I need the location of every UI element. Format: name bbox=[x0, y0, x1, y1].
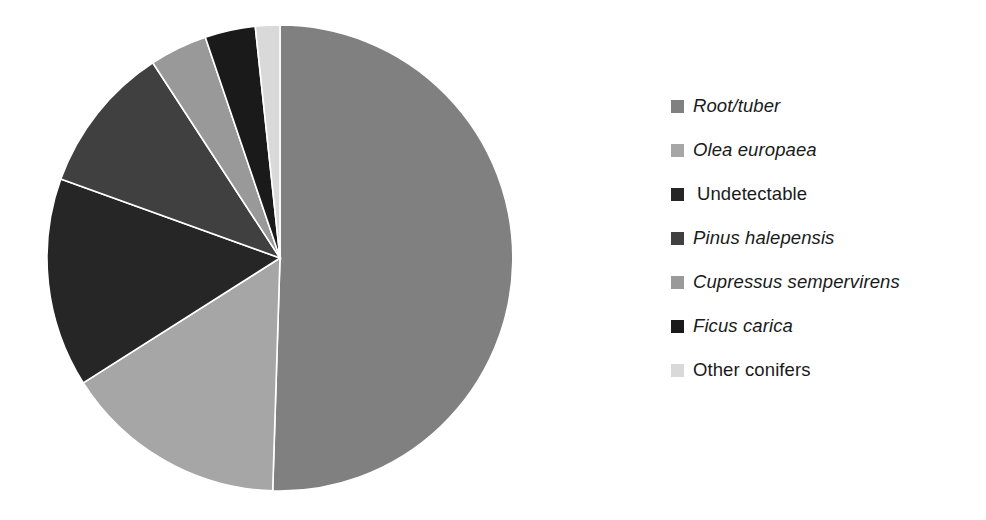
chart-legend: Root/tuber Olea europaea Undetectable Pi… bbox=[671, 84, 971, 392]
legend-swatch-icon-ficus-carica bbox=[671, 320, 684, 333]
legend-item-root-tuber[interactable]: Root/tuber bbox=[671, 84, 971, 128]
legend-item-olea-europaea[interactable]: Olea europaea bbox=[671, 128, 971, 172]
legend-swatch-icon-cupressus-sempervirens bbox=[671, 276, 684, 289]
legend-label-cupressus-sempervirens: Cupressus sempervirens bbox=[693, 273, 900, 292]
legend-label-olea-europaea: Olea europaea bbox=[693, 141, 817, 160]
legend-item-other-conifers[interactable]: Other conifers bbox=[671, 348, 971, 392]
legend-label-pinus-halepensis: Pinus halepensis bbox=[693, 229, 834, 248]
legend-label-other-conifers: Other conifers bbox=[693, 361, 811, 380]
legend-label-ficus-carica: Ficus carica bbox=[693, 317, 793, 336]
legend-swatch-icon-pinus-halepensis bbox=[671, 232, 684, 245]
legend-item-cupressus-sempervirens[interactable]: Cupressus sempervirens bbox=[671, 260, 971, 304]
legend-label-undetectable: Undetectable bbox=[693, 185, 807, 204]
pie-slice-group bbox=[47, 25, 513, 491]
pie-slice-root-tuber[interactable] bbox=[273, 25, 513, 491]
legend-item-pinus-halepensis[interactable]: Pinus halepensis bbox=[671, 216, 971, 260]
pie-plot-area bbox=[0, 0, 600, 520]
legend-swatch-icon-undetectable bbox=[671, 188, 684, 201]
legend-swatch-icon-root-tuber bbox=[671, 100, 684, 113]
pie-chart-figure: Root/tuber Olea europaea Undetectable Pi… bbox=[0, 0, 986, 520]
pie-svg bbox=[0, 0, 600, 520]
legend-swatch-icon-other-conifers bbox=[671, 364, 684, 377]
legend-label-root-tuber: Root/tuber bbox=[693, 97, 780, 116]
legend-swatch-icon-olea-europaea bbox=[671, 144, 684, 157]
legend-item-undetectable[interactable]: Undetectable bbox=[671, 172, 971, 216]
legend-item-ficus-carica[interactable]: Ficus carica bbox=[671, 304, 971, 348]
